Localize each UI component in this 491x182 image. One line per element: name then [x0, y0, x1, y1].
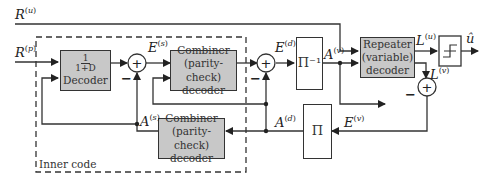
label-e-s: E(s)	[148, 41, 168, 54]
combiner-top-block: Combiner (parity-check) decoder	[170, 50, 237, 91]
minus-sign-summer-2: −	[250, 72, 261, 85]
inner-code-label: Inner code	[39, 158, 96, 170]
label-a-s: A(s)	[140, 115, 160, 128]
label-r-p: R(p)	[15, 46, 36, 59]
turbo-equalizer-diagram: + + + 1 1+D Decoder Combiner (parity-che…	[0, 0, 491, 182]
svg-text:+: +	[422, 80, 433, 95]
svg-text:+: +	[132, 56, 143, 71]
label-a-d: A(d)	[275, 116, 296, 129]
minus-sign-summer-3: −	[405, 88, 416, 101]
label-l-u: L(u)	[416, 34, 436, 47]
label-r-u: R(u)	[15, 8, 36, 21]
diagram-wires: + + +	[0, 0, 491, 182]
label-e-v: E(v)	[344, 116, 364, 129]
interleaver-block: Π	[303, 104, 332, 159]
decoder-1-plus-d-block: 1 1+D Decoder	[60, 50, 111, 91]
svg-text:+: +	[261, 56, 272, 71]
label-u-hat: û	[466, 32, 474, 45]
transfer-function: 1 1+D	[75, 54, 95, 75]
combiner-bottom-block: Combiner (parity-check) decoder	[158, 118, 225, 159]
label-a-v: A(v)	[324, 48, 344, 61]
deinterleaver-block: Π⁻¹	[296, 37, 323, 90]
repeater-block: Repeater (variable) decoder	[360, 37, 415, 78]
minus-sign-summer-1: −	[121, 72, 132, 85]
label-l-v: L(v)	[430, 68, 449, 81]
label-e-d: E(d)	[275, 41, 296, 54]
